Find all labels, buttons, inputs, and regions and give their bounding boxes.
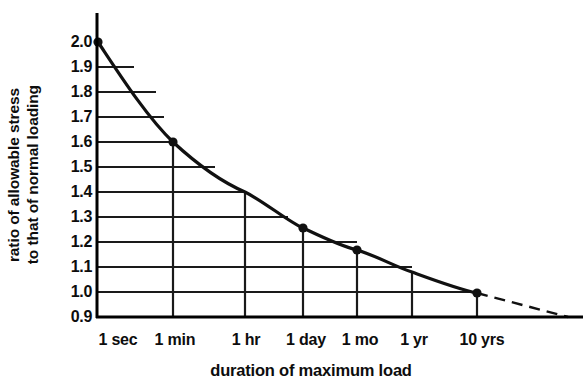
x-tick-label: 1 yr bbox=[400, 332, 428, 348]
x-tick-label: 1 day bbox=[286, 332, 326, 348]
x-tick-label: 1 min bbox=[155, 332, 196, 348]
x-tick-label: 1 sec bbox=[98, 332, 137, 348]
chart-figure: ratio of allowable stress to that of nor… bbox=[0, 0, 586, 391]
x-axis-tick-labels: 1 sec 1 min 1 hr 1 day 1 mo 1 yr 10 yrs bbox=[0, 0, 586, 391]
x-tick-label: 1 mo bbox=[342, 332, 379, 348]
x-tick-label: 1 hr bbox=[232, 332, 261, 348]
x-axis-title: duration of maximum load bbox=[0, 361, 586, 380]
x-tick-label: 10 yrs bbox=[459, 332, 504, 348]
